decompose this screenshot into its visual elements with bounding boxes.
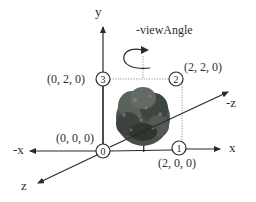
diagram-canvas: 0 1 2 3 xyxy=(0,0,256,202)
z-axis-label: z xyxy=(21,180,27,192)
vertex-2-number: 2 xyxy=(174,74,179,85)
rotation-arrow-icon xyxy=(124,46,150,68)
vertex-3-number: 3 xyxy=(101,74,106,85)
vertex-0-number: 0 xyxy=(101,146,106,157)
neg-x-axis-label: -x xyxy=(13,144,24,156)
billboard-diagram: 0 1 2 3 y -viewAngle (0, 2, 0) (2, 2, 0)… xyxy=(0,0,256,202)
vertex-0-coord: (0, 0, 0) xyxy=(56,132,94,144)
neg-z-axis-label: -z xyxy=(226,97,236,109)
z-axis xyxy=(38,155,97,183)
view-angle-label: -viewAngle xyxy=(136,24,193,36)
y-axis-label: y xyxy=(95,6,102,18)
vertex-2-coord: (2, 2, 0) xyxy=(184,61,222,73)
vertex-3-coord: (0, 2, 0) xyxy=(47,73,85,85)
x-axis-label: x xyxy=(229,142,236,154)
vertex-1-coord: (2, 0, 0) xyxy=(158,157,196,169)
tree-image xyxy=(116,87,170,152)
vertex-1-number: 1 xyxy=(177,143,182,154)
x-axis-segment xyxy=(110,150,172,151)
